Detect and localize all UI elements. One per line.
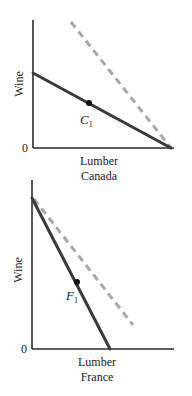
charts-canvas: C1 0 Wine Lumber Canada F1 0 Wine Lumber… xyxy=(0,0,192,396)
france-y-axis-label: Wine xyxy=(11,257,25,283)
france-ppf-line xyxy=(32,198,110,349)
france-point-label: F1 xyxy=(65,288,78,305)
france-country-label: France xyxy=(81,370,114,384)
canada-x-axis-label: Lumber xyxy=(80,154,118,168)
france-trade-line xyxy=(34,199,133,325)
canada-point-c1 xyxy=(86,100,92,106)
canada-country-label: Canada xyxy=(81,169,118,183)
canada-trade-line xyxy=(71,22,171,148)
canada-y-axis-label: Wine xyxy=(12,71,26,97)
france-origin-label: 0 xyxy=(21,342,27,356)
canada-ppf-line xyxy=(33,73,171,148)
france-chart: F1 0 Wine Lumber France xyxy=(11,180,174,384)
canada-origin-label: 0 xyxy=(22,141,28,155)
canada-point-label: C1 xyxy=(80,112,93,129)
canada-chart: C1 0 Wine Lumber Canada xyxy=(12,20,174,183)
france-point-f1 xyxy=(74,279,80,285)
france-x-axis-label: Lumber xyxy=(78,355,116,369)
